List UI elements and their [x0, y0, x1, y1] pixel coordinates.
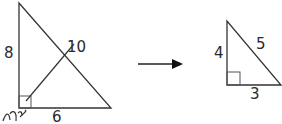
left-side-vertical-label: 8	[4, 44, 14, 62]
right-triangle: 4 3 5	[214, 21, 281, 103]
diagram-canvas: 8 6 10 4 3 5	[0, 0, 282, 124]
arrow-head-icon	[172, 59, 183, 69]
right-triangle-outline	[227, 21, 281, 85]
right-right-angle-marker	[227, 72, 240, 85]
right-side-vertical-label: 4	[214, 44, 224, 62]
left-hypotenuse-label: 10	[67, 38, 86, 56]
right-hypotenuse-label: 5	[256, 35, 266, 53]
diagram-svg: 8 6 10 4 3 5	[0, 0, 282, 124]
right-side-horizontal-label: 3	[250, 85, 260, 103]
transform-arrow	[138, 59, 183, 69]
handwritten-scribble	[3, 110, 26, 121]
left-side-horizontal-label: 6	[52, 108, 62, 124]
left-triangle: 8 6 10	[3, 3, 111, 124]
